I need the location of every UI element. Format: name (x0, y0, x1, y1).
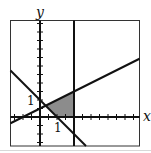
x-unit-label: 1 (54, 121, 62, 135)
y-unit-label: 1 (27, 94, 35, 108)
boundary-lines (11, 21, 140, 147)
inequality-graph: y x 1 1 (0, 0, 151, 153)
x-axis-label: x (143, 108, 151, 124)
bottom-rule (0, 150, 151, 151)
y-axis-label: y (35, 4, 45, 20)
